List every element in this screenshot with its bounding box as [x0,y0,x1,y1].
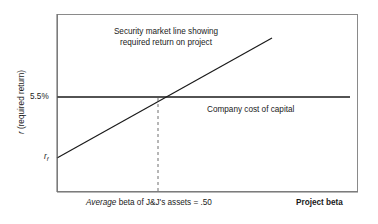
security-market-line-chart: Security market line showing required re… [0,0,378,224]
rf-subscript: f [47,156,49,162]
risk-free-rate-label: rf [44,152,48,164]
sml-annotation-line-1: Security market line showing [114,27,218,36]
y-axis-title: r (required return) [17,42,27,162]
y-axis-title-symbol: r [17,131,26,134]
company-cost-of-capital-label: Company cost of capital [207,105,294,115]
average-beta-note-emphasis: Average [86,198,116,207]
y-axis-tick-label-5-5-percent: 5.5% [30,92,49,102]
average-beta-note-text: beta of J&J's assets = .50 [116,198,212,207]
sml-annotation: Security market line showing required re… [98,26,234,48]
y-axis-title-text: (required return) [17,70,26,131]
average-beta-note: Average beta of J&J's assets = .50 [86,198,212,208]
x-axis-title: Project beta [296,198,343,208]
sml-annotation-line-2: required return on project [120,38,212,47]
